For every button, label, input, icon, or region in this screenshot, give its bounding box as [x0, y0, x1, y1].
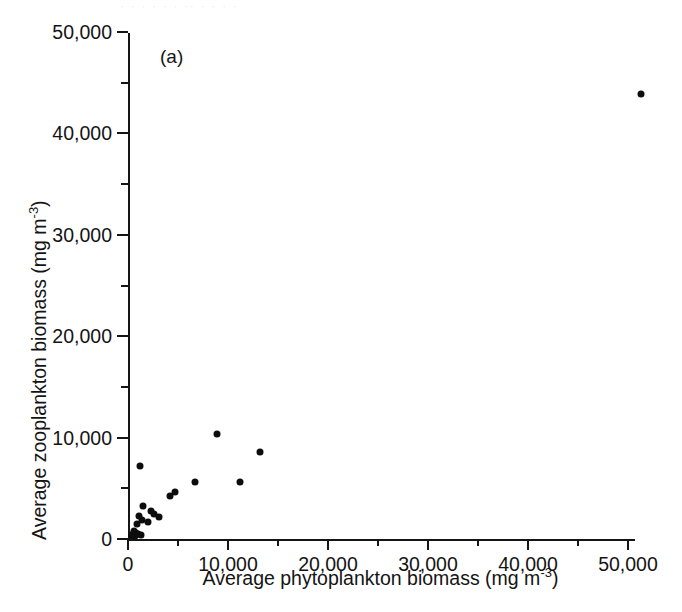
y-axis-line: [128, 33, 130, 541]
data-point: [134, 520, 141, 527]
y-tick-label-40000: 40,000: [52, 122, 112, 145]
data-point: [132, 533, 139, 540]
x-axis-title-exponent: -3: [540, 565, 552, 580]
data-point: [138, 531, 145, 538]
data-point: [257, 448, 264, 455]
y-tick-20000: [117, 335, 128, 337]
y-axis-title-exponent: -3: [26, 207, 41, 219]
y-tick-label-20000: 20,000: [52, 325, 112, 348]
data-point: [145, 518, 152, 525]
page-bleed-text: · · · · · · ·· · · · ·: [120, 0, 560, 9]
y-tick-30000: [117, 234, 128, 236]
y-axis-title-tail: ): [28, 200, 50, 207]
data-point: [140, 502, 147, 509]
data-point: [638, 90, 645, 97]
x-minor-tick-15000: [277, 539, 279, 546]
y-axis-title: Average zooplankton biomass (mg m-3): [26, 200, 51, 540]
y-tick-50000: [117, 31, 128, 33]
x-minor-tick-45000: [577, 539, 579, 546]
data-point: [137, 462, 144, 469]
y-tick-label-50000: 50,000: [52, 21, 112, 44]
data-point: [214, 430, 221, 437]
y-tick-label-0: 0: [101, 528, 112, 551]
plot-area: 010,00020,00030,00040,00050,000 010,0002…: [128, 33, 633, 540]
x-tick-0: [127, 539, 129, 550]
x-axis-line: [128, 539, 635, 541]
y-tick-label-10000: 10,000: [52, 426, 112, 449]
scatter-plot-figure: · · · · · · ·· · · · · (a) 010,00020,000…: [0, 0, 682, 612]
x-axis-title-text: Average phytoplankton biomass (mg m: [203, 567, 541, 589]
x-tick-20000: [327, 539, 329, 550]
y-axis-title-text: Average zooplankton biomass (mg m: [28, 218, 50, 540]
y-tick-10000: [117, 437, 128, 439]
y-minor-tick-45000: [121, 82, 128, 84]
data-point: [192, 479, 199, 486]
x-tick-50000: [627, 539, 629, 550]
y-tick-40000: [117, 132, 128, 134]
x-axis-title-tail: ): [552, 567, 559, 589]
y-tick-label-30000: 30,000: [52, 223, 112, 246]
y-minor-tick-25000: [121, 285, 128, 287]
data-point: [156, 513, 163, 520]
data-point: [237, 479, 244, 486]
x-minor-tick-25000: [377, 539, 379, 546]
x-axis-title: Average phytoplankton biomass (mg m-3): [128, 565, 633, 590]
y-minor-tick-5000: [121, 487, 128, 489]
y-minor-tick-15000: [121, 386, 128, 388]
data-point: [172, 489, 179, 496]
x-minor-tick-35000: [477, 539, 479, 546]
y-minor-tick-35000: [121, 183, 128, 185]
x-tick-30000: [427, 539, 429, 550]
x-tick-10000: [227, 539, 229, 550]
x-tick-40000: [527, 539, 529, 550]
x-minor-tick-5000: [177, 539, 179, 546]
